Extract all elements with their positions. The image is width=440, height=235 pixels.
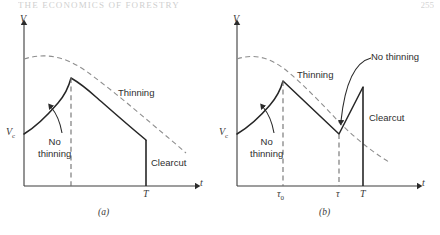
panel-a-plot xyxy=(0,8,220,235)
panel-a-x-tick-T-text: T xyxy=(143,188,149,199)
panel-b-plot xyxy=(213,8,440,235)
panel-b-y-tick-vc: Vc xyxy=(219,127,228,140)
figure-panel-b: V t Vc τ0 τ T No thinning Thinning No th… xyxy=(213,8,433,235)
panel-b-x-axis-label: t xyxy=(422,178,425,189)
panel-a-no-thinning-pointer xyxy=(51,107,62,133)
panel-b-annotation-clearcut: Clearcut xyxy=(369,113,404,123)
panel-b-managed-volume-curve xyxy=(237,81,363,134)
panel-b-annotation-thinning: Thinning xyxy=(297,70,333,80)
panel-b-x-tick-tau-text: τ xyxy=(336,188,340,199)
panel-b-y-tick-vc-sub: c xyxy=(225,132,228,140)
panel-a-x-axis-label: t xyxy=(200,178,203,189)
panel-b-x-tick-tau0: τ0 xyxy=(277,189,284,202)
panel-a-annotation-thinning: Thinning xyxy=(118,88,154,98)
panel-b-no-thinning-right-pointer xyxy=(341,58,371,121)
panel-b-caption: (b) xyxy=(319,208,330,218)
panel-a-y-axis-label: V xyxy=(20,14,26,25)
panel-a-y-tick-vc-sub: c xyxy=(12,132,15,140)
panel-b-annotation-no-thinning-left-line2: thinning xyxy=(250,148,283,160)
panel-b-x-tick-T-text: T xyxy=(360,188,366,199)
panel-a-annotation-no-thinning-line2: thinning xyxy=(38,148,71,160)
panel-b-annotation-no-thinning-left: No thinning xyxy=(250,136,283,159)
panel-a-annotation-clearcut: Clearcut xyxy=(151,158,186,168)
panel-a-annotation-no-thinning-line1: No xyxy=(38,136,71,148)
panel-b-annotation-no-thinning-left-line1: No xyxy=(250,136,283,148)
panel-a-y-tick-vc: Vc xyxy=(6,127,15,140)
panel-b-x-tick-tau: τ xyxy=(336,189,340,200)
panel-b-y-axis-label: V xyxy=(233,14,239,25)
panel-b-annotation-no-thinning-right: No thinning xyxy=(371,52,419,62)
panel-a-annotation-no-thinning: No thinning xyxy=(38,136,71,159)
panel-b-x-tick-tau0-sub: 0 xyxy=(281,194,285,202)
panel-a-x-tick-T: T xyxy=(143,189,149,200)
panel-a-caption: (a) xyxy=(98,208,109,218)
panel-b-x-tick-T: T xyxy=(360,189,366,200)
figure-panel-a: V t Vc T No thinning Thinning Clearcut (… xyxy=(0,8,220,235)
